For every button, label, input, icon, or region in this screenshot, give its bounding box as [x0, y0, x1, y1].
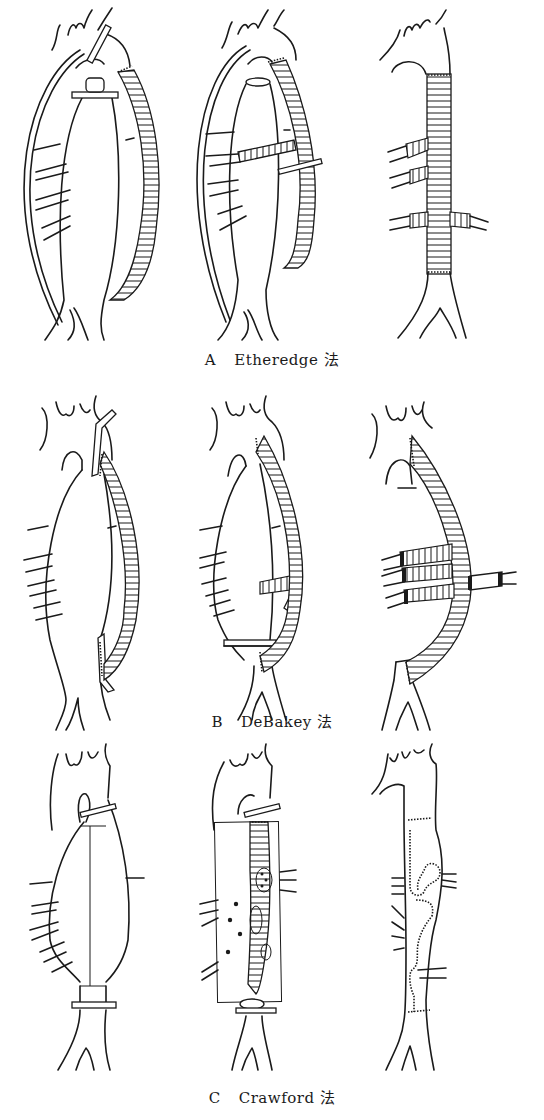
panel-a-method: Etheredge 法	[234, 351, 339, 369]
etheredge-diagram	[0, 0, 544, 370]
b3-figure	[370, 402, 516, 730]
a3-figure	[380, 10, 488, 338]
panel-a: AEtheredge 法	[0, 0, 544, 370]
c2-figure	[200, 744, 296, 1070]
panel-c-method: Crawford 法	[239, 1089, 336, 1107]
debakey-diagram	[0, 380, 544, 740]
panel-c-caption: CCrawford 法	[0, 1086, 544, 1107]
c3-figure	[372, 744, 456, 1070]
panel-a-letter: A	[205, 351, 216, 369]
c1-figure	[30, 744, 144, 1070]
b1-figure	[24, 396, 139, 730]
panel-b-letter: B	[211, 713, 223, 731]
a2-figure	[197, 10, 322, 340]
panel-b-caption: BDeBakey 法	[0, 710, 544, 731]
panel-b: BDeBakey 法	[0, 380, 544, 740]
crawford-diagram	[0, 730, 544, 1120]
a1-figure	[24, 8, 159, 340]
panel-c: CCrawford 法	[0, 730, 544, 1120]
panel-b-method: DeBakey 法	[241, 713, 333, 731]
b2-figure	[200, 396, 303, 720]
panel-a-caption: AEtheredge 法	[0, 348, 544, 369]
panel-c-letter: C	[209, 1089, 221, 1107]
